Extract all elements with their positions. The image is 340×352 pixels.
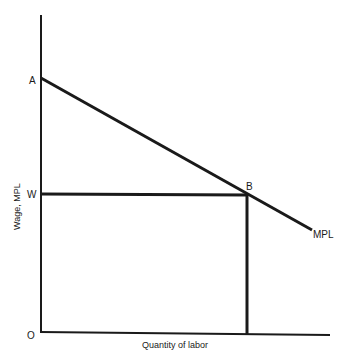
y-axis-label: Wage, MPL [12,183,22,230]
x-axis-label: Quantity of labor [142,340,208,350]
origin-label: O [27,330,35,341]
mpl-diagram: A W B MPL O Quantity of labor Wage, MPL [0,0,340,352]
mpl-curve [41,78,312,230]
point-b-label: B [246,181,253,192]
point-w-label: W [27,189,37,200]
curve-mpl-label: MPL [313,229,334,240]
wage-line [41,194,248,195]
x-axis [40,332,330,335]
point-a-label: A [29,75,36,86]
